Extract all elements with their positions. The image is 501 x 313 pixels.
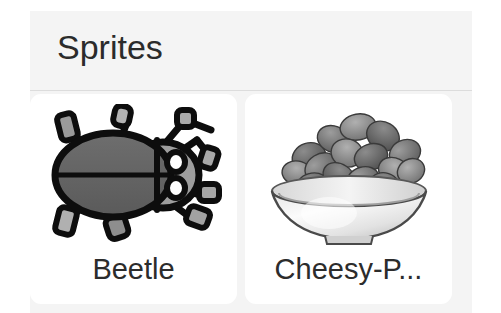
beetle-sprite-icon	[45, 104, 223, 246]
sprite-card-beetle[interactable]: Beetle	[30, 94, 237, 304]
cheesy-puffs-bowl-sprite-icon	[263, 105, 435, 245]
sprite-thumbnail	[30, 100, 237, 250]
sprite-library-screen: Sprites	[0, 0, 501, 313]
header-divider	[30, 90, 472, 91]
sprite-card-cheesy-puffs[interactable]: Cheesy-P...	[245, 94, 452, 304]
sprite-thumbnail	[245, 100, 452, 250]
sprite-card-label: Beetle	[30, 252, 237, 286]
sprites-panel: Sprites	[30, 11, 472, 313]
panel-header: Sprites	[30, 11, 472, 90]
sprite-card-grid: Beetle	[30, 94, 472, 313]
page-title: Sprites	[57, 27, 163, 67]
sprite-card-label: Cheesy-P...	[245, 252, 452, 286]
